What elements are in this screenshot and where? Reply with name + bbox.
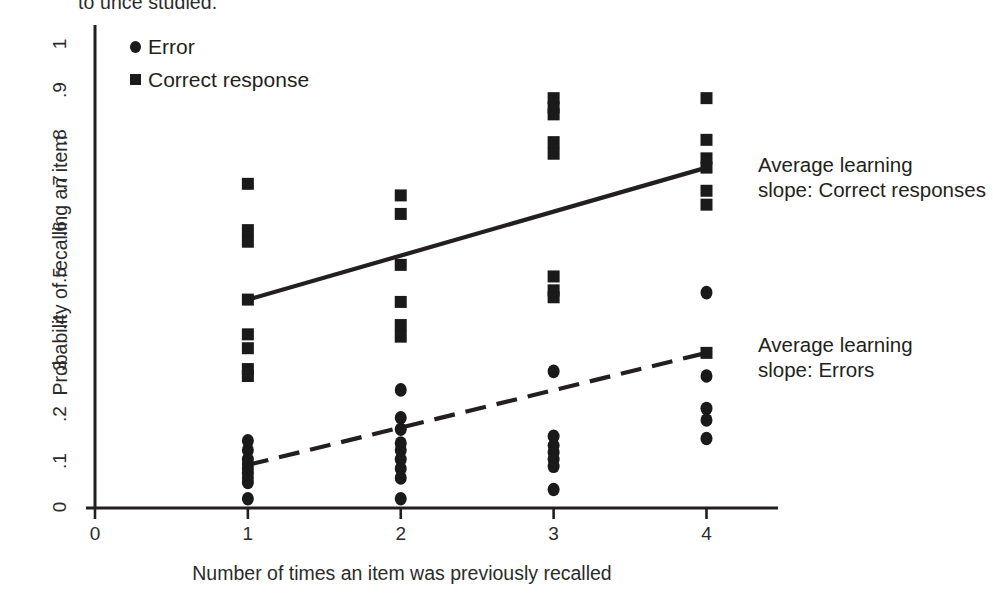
data-point-error — [395, 383, 407, 397]
data-point-correct-response — [548, 136, 560, 148]
data-point-error — [700, 369, 712, 383]
trendline-errors — [248, 353, 707, 465]
legend: Error Correct response — [122, 30, 309, 96]
data-point-error — [700, 432, 712, 446]
trendline-correct-responses — [248, 168, 707, 300]
data-point-correct-response — [700, 162, 712, 174]
axes-group — [86, 25, 778, 508]
data-point-correct-response — [548, 270, 560, 282]
tick-marks-group — [95, 508, 706, 519]
x-tick-label-3: 3 — [539, 523, 569, 545]
data-point-correct-response — [395, 331, 407, 343]
legend-label-correct-response: Correct response — [148, 68, 309, 92]
data-point-correct-response — [395, 259, 407, 271]
data-point-correct-response — [242, 342, 254, 354]
data-point-correct-response — [395, 296, 407, 308]
annotation-correct-line1: Average learning — [758, 152, 986, 177]
data-points-group — [242, 92, 713, 505]
legend-item-error: Error — [122, 30, 309, 63]
data-point-correct-response — [395, 189, 407, 201]
figure-container: to unce studied. 0.1.2.3.4.5.6.7.8.91 01… — [0, 0, 993, 609]
data-point-correct-response — [395, 208, 407, 220]
annotation-correct-line2: slope: Correct responses — [758, 177, 986, 202]
y-axis-title: Probability of recalling an item — [49, 56, 72, 476]
data-point-error — [242, 476, 254, 490]
annotation-errors-line1: Average learning — [758, 332, 913, 357]
y-tick-label-0: 0 — [49, 490, 71, 524]
x-tick-label-1: 1 — [233, 523, 263, 545]
data-point-correct-response — [242, 224, 254, 236]
square-marker-icon — [122, 74, 148, 85]
data-point-correct-response — [700, 134, 712, 146]
data-point-correct-response — [700, 347, 712, 359]
legend-label-error: Error — [148, 35, 195, 59]
data-point-correct-response — [242, 294, 254, 306]
data-point-correct-response — [700, 185, 712, 197]
x-axis-title: Number of times an item was previously r… — [142, 562, 662, 585]
annotation-errors-slope: Average learning slope: Errors — [758, 332, 913, 382]
data-point-correct-response — [242, 236, 254, 248]
data-point-correct-response — [548, 108, 560, 120]
data-point-error — [548, 365, 560, 379]
data-point-correct-response — [700, 92, 712, 104]
data-point-correct-response — [548, 148, 560, 160]
data-point-correct-response — [242, 178, 254, 190]
data-point-error — [395, 422, 407, 436]
data-point-correct-response — [700, 199, 712, 211]
circle-marker-icon — [122, 41, 148, 53]
annotation-correct-slope: Average learning slope: Correct response… — [758, 152, 986, 202]
trendlines-group — [248, 168, 707, 465]
data-point-correct-response — [548, 291, 560, 303]
data-point-error — [395, 411, 407, 425]
data-point-error — [395, 471, 407, 485]
legend-item-correct-response: Correct response — [122, 63, 309, 96]
data-point-error — [700, 402, 712, 416]
annotation-errors-line2: slope: Errors — [758, 357, 913, 382]
data-point-error — [548, 460, 560, 474]
data-point-correct-response — [242, 370, 254, 382]
data-point-error — [548, 483, 560, 497]
data-point-error — [700, 286, 712, 300]
x-tick-label-2: 2 — [386, 523, 416, 545]
data-point-correct-response — [242, 328, 254, 340]
data-point-error — [242, 492, 254, 506]
x-tick-label-4: 4 — [691, 523, 721, 545]
data-point-error — [700, 413, 712, 427]
x-tick-label-0: 0 — [80, 523, 110, 545]
data-point-error — [395, 492, 407, 506]
data-point-correct-response — [395, 319, 407, 331]
